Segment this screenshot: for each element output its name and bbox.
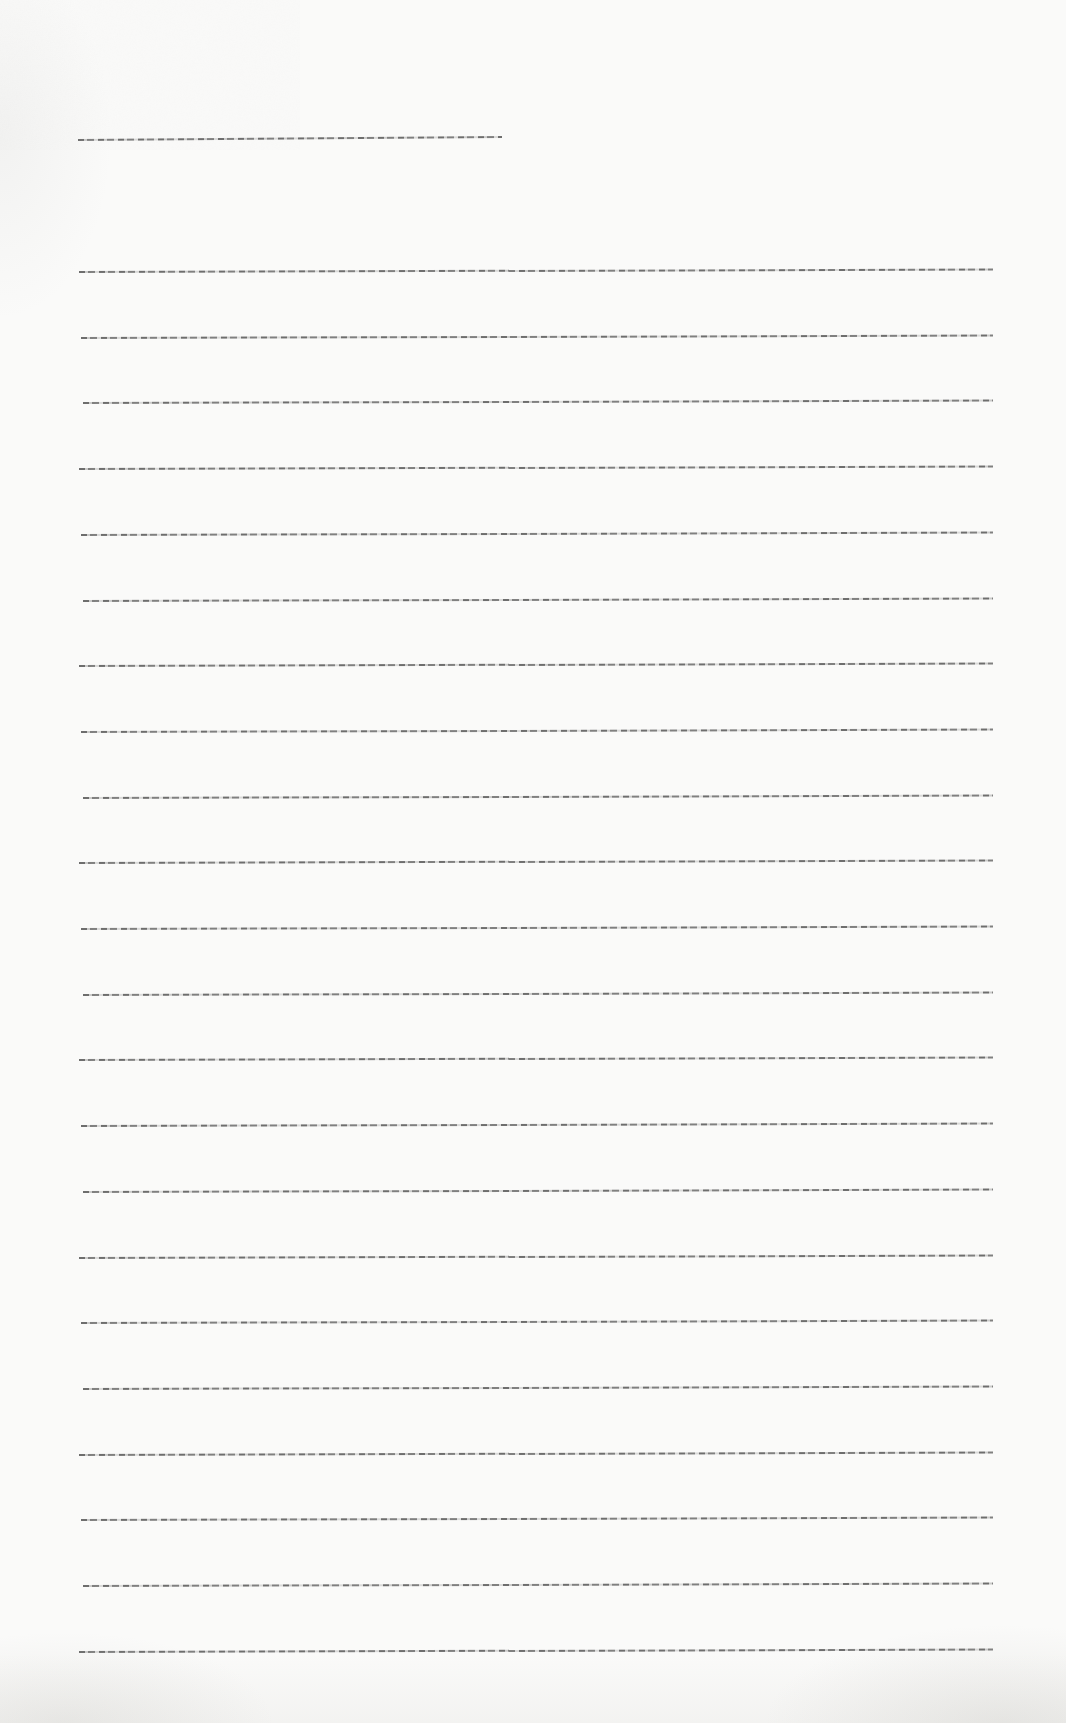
ruled-line: [83, 1386, 993, 1390]
ruled-line: [83, 598, 993, 602]
ruled-line: [83, 1583, 993, 1587]
ruled-line: [79, 466, 993, 470]
ruled-line: [81, 729, 993, 733]
ruled-line: [79, 1649, 993, 1653]
ruled-line: [83, 992, 993, 996]
ruled-line: [79, 860, 993, 864]
ruled-line: [81, 532, 993, 536]
grain-full-page: [0, 0, 300, 150]
ruled-line: [81, 1123, 993, 1127]
ruled-line: [81, 1517, 993, 1521]
ruled-line: [79, 1057, 993, 1061]
ruled-line: [79, 269, 993, 273]
ruled-line: [79, 663, 993, 667]
notebook-page: [0, 0, 1066, 1723]
ruled-line: [81, 335, 993, 339]
ruled-line: [79, 1255, 993, 1259]
scan-noise-overlay: [0, 0, 300, 150]
ruled-line: [81, 926, 993, 930]
ruled-line: [83, 795, 993, 799]
ruled-line: [81, 1320, 993, 1324]
ruled-line: [83, 400, 993, 404]
ruled-line: [83, 1189, 993, 1193]
title-rule-line: [78, 136, 502, 140]
ruled-line: [79, 1452, 993, 1456]
